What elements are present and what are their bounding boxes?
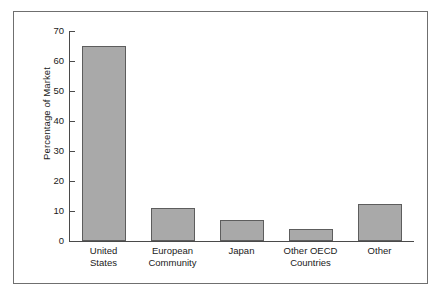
x-tick-label: Other (345, 245, 414, 257)
x-tick-label: Other OECDCountries (276, 245, 345, 268)
chart-frame: Percentage of Market 010203040506070 Uni… (13, 11, 428, 284)
y-tick-label: 10 (34, 205, 64, 216)
y-tick-label: 50 (34, 85, 64, 96)
y-tick-label: 60 (34, 55, 64, 66)
bar (289, 229, 333, 241)
y-tick: 10 (69, 211, 75, 212)
y-tick-mark (70, 61, 75, 62)
y-tick: 30 (69, 151, 75, 152)
x-tick-label-line: Japan (207, 245, 276, 257)
bar (82, 46, 126, 241)
x-tick-label-line: Countries (276, 257, 345, 269)
y-tick: 60 (69, 61, 75, 62)
x-tick-label-line: Other (345, 245, 414, 257)
y-tick-mark (70, 241, 75, 242)
y-tick-label: 20 (34, 175, 64, 186)
y-tick-mark (70, 31, 75, 32)
y-tick-label: 0 (34, 235, 64, 246)
bar (151, 208, 195, 241)
y-tick-mark (70, 151, 75, 152)
y-tick-label: 30 (34, 145, 64, 156)
x-tick-label: EuropeanCommunity (138, 245, 207, 268)
y-tick: 0 (69, 241, 75, 242)
bar (358, 204, 402, 242)
bar (220, 220, 264, 241)
x-tick-label-line: States (69, 257, 138, 269)
y-tick: 50 (69, 91, 75, 92)
y-tick-mark (70, 121, 75, 122)
plot-area: 010203040506070 UnitedStatesEuropeanComm… (69, 31, 414, 241)
x-tick-label-line: Other OECD (276, 245, 345, 257)
x-tick-label: Japan (207, 245, 276, 257)
y-tick: 70 (69, 31, 75, 32)
y-tick-label: 70 (34, 25, 64, 36)
y-tick: 20 (69, 181, 75, 182)
x-tick-label-line: United (69, 245, 138, 257)
x-tick-label: UnitedStates (69, 245, 138, 268)
y-tick: 40 (69, 121, 75, 122)
x-tick-label-line: Community (138, 257, 207, 269)
x-axis-line (69, 241, 414, 242)
y-tick-mark (70, 211, 75, 212)
x-tick-label-line: European (138, 245, 207, 257)
y-tick-mark (70, 91, 75, 92)
y-tick-label: 40 (34, 115, 64, 126)
y-tick-mark (70, 181, 75, 182)
